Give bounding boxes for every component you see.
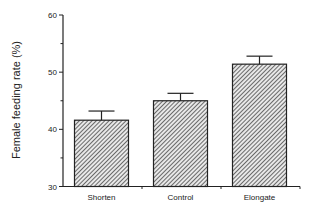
bar-elongate (233, 64, 287, 186)
x-tick-label: Shorten (87, 193, 115, 202)
y-tick-label: 50 (48, 68, 57, 77)
y-tick-label: 40 (48, 125, 57, 134)
x-tick-label: Control (168, 193, 194, 202)
y-tick-label: 30 (48, 183, 57, 192)
y-tick-label: 60 (48, 11, 57, 20)
y-axis: 30405060 (48, 11, 63, 192)
bar-shorten (75, 120, 129, 186)
bars (75, 56, 287, 186)
x-tick-label: Elongate (244, 193, 276, 202)
y-axis-label: Female feeding rate (%) (10, 41, 22, 159)
x-axis: ShortenControlElongate (63, 187, 300, 202)
bar-chart: 30405060 ShortenControlElongate Female f… (0, 0, 317, 216)
bar-control (154, 101, 208, 187)
